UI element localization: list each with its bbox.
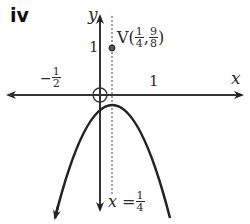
symmetry-fraction: 1 4 — [136, 190, 145, 213]
vertex-y-fraction: 9 8 — [149, 26, 158, 49]
fraction: 1 2 — [52, 66, 61, 89]
y-axis-label: y — [88, 4, 98, 24]
symmetry-prefix: x = — [108, 192, 136, 211]
vertex-x-fraction: 1 4 — [135, 26, 144, 49]
vertex-suffix: ) — [158, 28, 164, 47]
denominator: 8 — [150, 38, 157, 49]
vertex-label: V( 1 4 , 9 8 ) — [117, 26, 164, 49]
graph-figure: iv y x 1 1 − 1 2 V( 1 4 , 9 8 ) x = 1 4 — [0, 0, 250, 224]
x-intercept-left-label: − 1 2 — [40, 66, 61, 89]
denominator: 4 — [136, 38, 143, 49]
axis-of-symmetry-label: x = 1 4 — [108, 190, 145, 213]
vertex-point — [109, 45, 115, 51]
y-intercept-label: 1 — [89, 38, 99, 56]
x-intercept-right-label: 1 — [149, 72, 159, 90]
part-label: iv — [10, 4, 29, 26]
vertex-prefix: V( — [117, 28, 135, 47]
minus-sign: − — [40, 70, 52, 86]
x-axis-label: x — [231, 68, 241, 88]
denominator: 4 — [137, 202, 144, 213]
denominator: 2 — [53, 78, 60, 89]
